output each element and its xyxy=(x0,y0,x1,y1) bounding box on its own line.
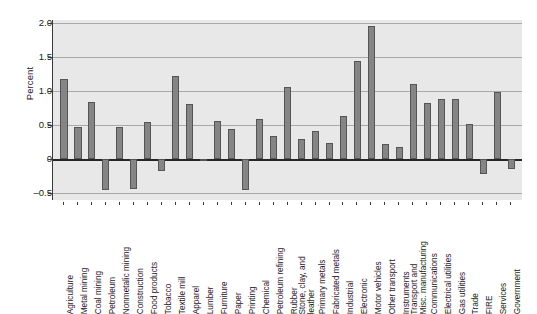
x-tick-label: Petroleum refining xyxy=(276,248,285,314)
bar xyxy=(452,99,459,159)
x-tick-label: Transport andMisc. manufacturing xyxy=(410,241,428,314)
x-tick-mark xyxy=(147,202,148,205)
y-tick-label: 1.5 xyxy=(6,53,52,63)
x-tick-mark xyxy=(245,202,246,205)
x-tick-label: Petroleum xyxy=(108,277,117,314)
y-tick-label: –0.5 xyxy=(6,188,52,198)
x-tick-mark xyxy=(510,202,511,205)
x-tick-label: Stone, clay, andleather xyxy=(298,256,316,314)
x-tick-label: Electronic xyxy=(360,278,369,314)
x-tick-mark xyxy=(301,202,302,205)
bar xyxy=(382,144,389,159)
x-tick-label: Coal mining xyxy=(94,271,103,314)
x-tick-label: Nonmetalic mining xyxy=(122,247,131,314)
x-tick-mark xyxy=(231,202,232,205)
x-tick-mark xyxy=(77,202,78,205)
bar xyxy=(312,131,319,160)
bar xyxy=(298,139,305,159)
x-tick-label: Construction xyxy=(136,268,145,314)
y-axis-ticks: 2.01.51.00.50–0.5 xyxy=(0,0,52,314)
x-tick-label: Communications xyxy=(430,253,439,314)
bar xyxy=(228,129,235,160)
x-tick-mark xyxy=(133,202,134,205)
x-tick-mark xyxy=(384,202,385,205)
x-tick-mark xyxy=(273,202,274,205)
bar xyxy=(102,159,109,190)
x-tick-mark xyxy=(259,202,260,205)
bar xyxy=(466,124,473,159)
bar xyxy=(340,116,347,159)
x-tick-mark xyxy=(398,202,399,205)
bar xyxy=(242,159,249,190)
bar xyxy=(74,127,81,159)
bar xyxy=(88,102,95,160)
bar xyxy=(60,79,67,159)
x-tick-mark xyxy=(315,202,316,205)
x-tick-mark xyxy=(287,202,288,205)
x-tick-label: Lumber xyxy=(206,286,215,314)
x-tick-label: Industrial xyxy=(346,281,355,314)
x-tick-mark xyxy=(426,202,427,205)
x-tick-mark xyxy=(189,202,190,205)
x-tick-mark xyxy=(63,202,64,205)
x-axis-labels: AgricultureMetal miningCoal miningPetrol… xyxy=(52,202,521,314)
bar xyxy=(158,159,165,171)
bar xyxy=(270,136,277,159)
bar xyxy=(354,61,361,159)
x-tick-mark xyxy=(217,202,218,205)
bar xyxy=(130,159,137,189)
x-tick-label: Chemical xyxy=(262,280,271,314)
x-tick-mark xyxy=(412,202,413,205)
x-tick-label: Trade xyxy=(471,293,480,314)
bar xyxy=(116,127,123,159)
bar xyxy=(368,26,375,159)
x-tick-label: Other transport xyxy=(388,259,397,314)
x-tick-mark xyxy=(203,202,204,205)
bar xyxy=(256,119,263,159)
bar xyxy=(214,121,221,159)
bar xyxy=(480,159,487,174)
x-tick-label: Services xyxy=(499,283,508,314)
x-tick-label: Paper xyxy=(234,292,243,314)
bar xyxy=(494,92,501,159)
x-tick-mark xyxy=(454,202,455,205)
x-tick-label: Furniture xyxy=(220,281,229,314)
bar xyxy=(144,122,151,159)
x-tick-mark xyxy=(468,202,469,205)
x-tick-label: Gas utilities xyxy=(458,272,467,314)
bar-chart-figure: Percent 2.01.51.00.50–0.5 AgricultureMet… xyxy=(0,0,537,314)
bar xyxy=(186,104,193,160)
bar xyxy=(284,87,291,159)
x-tick-mark xyxy=(119,202,120,205)
x-tick-label: Metal mining xyxy=(80,268,89,314)
y-tick-label: 0 xyxy=(6,154,52,164)
x-tick-mark xyxy=(105,202,106,205)
bar xyxy=(396,147,403,159)
x-tick-mark xyxy=(482,202,483,205)
x-tick-label: Tobacco xyxy=(164,284,173,314)
x-tick-label: Agriculture xyxy=(66,275,75,314)
plot-area xyxy=(52,20,522,200)
bar xyxy=(200,159,207,161)
x-tick-label: Textile mill xyxy=(178,276,187,314)
x-tick-mark xyxy=(356,202,357,205)
gridline xyxy=(53,57,522,58)
x-tick-label: Electrical utilities xyxy=(444,253,453,314)
x-tick-mark xyxy=(161,202,162,205)
y-tick-label: 0.5 xyxy=(6,121,52,131)
x-tick-label: Printing xyxy=(248,286,257,314)
x-tick-mark xyxy=(329,202,330,205)
bar xyxy=(438,99,445,159)
x-tick-mark xyxy=(342,202,343,205)
x-tick-mark xyxy=(370,202,371,205)
bar xyxy=(172,76,179,160)
x-tick-mark xyxy=(91,202,92,205)
zero-baseline xyxy=(53,159,522,161)
x-tick-mark xyxy=(496,202,497,205)
y-tick-label: 1.0 xyxy=(6,87,52,97)
gridline xyxy=(53,193,522,194)
gridline xyxy=(53,23,522,24)
x-tick-mark xyxy=(175,202,176,205)
bar xyxy=(326,143,333,159)
x-tick-label: Motor vehicles xyxy=(374,261,383,314)
